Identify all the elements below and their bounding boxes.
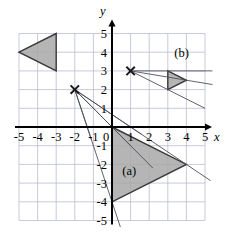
y-tick-label: -1 — [97, 139, 107, 153]
x-tick-label: -4 — [32, 130, 43, 144]
y-tick-label: 4 — [101, 46, 108, 60]
y-tick-label: 3 — [101, 64, 107, 78]
x-tick-label: -3 — [51, 130, 61, 144]
y-axis-name: y — [98, 4, 106, 18]
shape-label-image-b: (b) — [174, 46, 189, 60]
y-tick-label: 5 — [101, 27, 107, 41]
graph-svg: -5-4-3-2-101234554321-1-2-3-4-5 x y (a)(… — [0, 0, 226, 238]
y-tick-label: 1 — [101, 102, 107, 116]
x-tick-label: 4 — [183, 130, 190, 144]
x-tick-label: -2 — [70, 130, 80, 144]
x-tick-label: 5 — [202, 130, 208, 144]
y-tick-label: -2 — [97, 158, 107, 172]
x-tick-label: 1 — [127, 130, 133, 144]
shape-label-image-a: (a) — [122, 164, 136, 178]
x-tick-label: 3 — [165, 130, 171, 144]
y-tick-label: 2 — [101, 83, 107, 97]
y-tick-label: -4 — [97, 195, 108, 209]
x-tick-label: 2 — [146, 130, 152, 144]
coordinate-plane-figure: -5-4-3-2-101234554321-1-2-3-4-5 x y (a)(… — [0, 0, 226, 238]
x-axis-name: x — [213, 130, 220, 144]
y-tick-label: -3 — [97, 177, 107, 191]
x-tick-label: -5 — [14, 130, 24, 144]
y-tick-label: -5 — [97, 214, 107, 228]
